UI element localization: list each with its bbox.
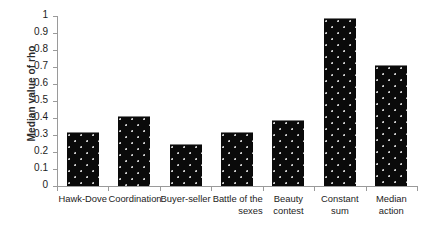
- x-axis-category-label: Median action: [366, 193, 417, 217]
- x-axis-tick-mark: [417, 186, 418, 191]
- y-axis-tick-label: 0.7: [34, 60, 48, 71]
- bar: [221, 132, 253, 186]
- y-axis-tick-mark: [53, 169, 57, 170]
- y-axis-tick-label: 0.1: [34, 162, 48, 173]
- x-axis-category-label: Beauty contest: [263, 193, 314, 217]
- y-axis-tick-mark: [53, 152, 57, 153]
- x-axis-tick-mark: [211, 186, 212, 191]
- x-axis-tick-mark: [108, 186, 109, 191]
- y-axis-line: [57, 16, 58, 187]
- x-axis-tick-mark: [366, 186, 367, 191]
- bar: [324, 18, 356, 186]
- x-axis-tick-mark: [160, 186, 161, 191]
- y-axis-tick-mark: [53, 101, 57, 102]
- x-axis-category-label: Constant sum: [314, 193, 365, 217]
- y-axis-tick-label: 0.3: [34, 128, 48, 139]
- x-axis-tick-mark: [314, 186, 315, 191]
- y-axis-tick-label: 0.9: [34, 26, 48, 37]
- x-axis-line: [57, 186, 417, 187]
- y-axis-tick-mark: [53, 84, 57, 85]
- y-axis-tick-label: 0.5: [34, 94, 48, 105]
- y-axis-tick-mark: [53, 135, 57, 136]
- y-axis-tick-label: 0.8: [34, 43, 48, 54]
- x-axis-category-label: Hawk-Dove: [57, 193, 108, 205]
- y-axis-tick-mark: [53, 33, 57, 34]
- y-axis-tick-label: 0.4: [34, 111, 48, 122]
- x-axis-category-label: Coordination: [108, 193, 159, 205]
- bar: [375, 65, 407, 186]
- y-axis-tick-mark: [53, 50, 57, 51]
- bar: [67, 132, 99, 186]
- bar: [170, 144, 202, 187]
- y-axis-tick-label: 0: [42, 179, 48, 190]
- y-axis-tick-label: 1: [42, 9, 48, 20]
- x-axis-tick-mark: [263, 186, 264, 191]
- y-axis-tick-label: 0.6: [34, 77, 48, 88]
- x-axis-category-label: Buyer-seller: [160, 193, 211, 205]
- y-axis-tick-mark: [53, 16, 57, 17]
- bar-chart: Median value of rho 10.90.80.70.60.50.40…: [0, 0, 426, 237]
- y-axis-tick-mark: [53, 67, 57, 68]
- y-axis-tick-mark: [53, 118, 57, 119]
- bar: [272, 120, 304, 186]
- bar: [118, 116, 150, 186]
- x-axis-category-label: Battle of the sexes: [211, 193, 262, 217]
- y-axis-tick-label: 0.2: [34, 145, 48, 156]
- x-axis-tick-mark: [57, 186, 58, 191]
